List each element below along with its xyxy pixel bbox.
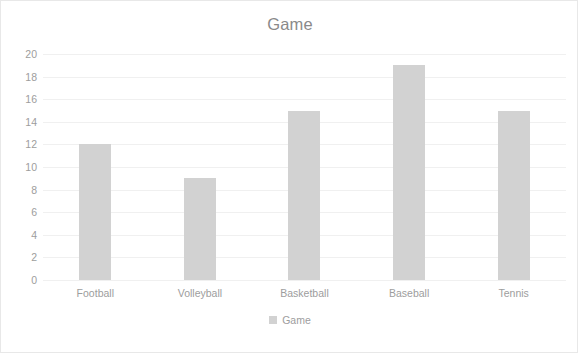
bar-chart: Game 20181614121086420 FootballVolleybal… xyxy=(0,0,578,353)
bar[interactable] xyxy=(393,65,425,280)
bar-slot xyxy=(148,54,253,280)
x-axis-tick-label: Volleyball xyxy=(178,287,222,299)
y-axis-tick-label: 12 xyxy=(3,138,37,150)
y-axis-tick-label: 2 xyxy=(3,251,37,263)
x-axis-tick-label: Football xyxy=(77,287,114,299)
bar[interactable] xyxy=(498,111,530,281)
y-axis-tick-label: 8 xyxy=(3,184,37,196)
y-axis-tick-label: 6 xyxy=(3,206,37,218)
chart-title: Game xyxy=(1,15,578,34)
bar-slot xyxy=(461,54,566,280)
bar-slot xyxy=(43,54,148,280)
y-axis-tick-label: 16 xyxy=(3,93,37,105)
bar[interactable] xyxy=(184,178,216,280)
y-axis-tick-label: 0 xyxy=(3,274,37,286)
x-axis-tick-label: Tennis xyxy=(499,287,529,299)
bar-slot xyxy=(252,54,357,280)
y-axis-tick-label: 20 xyxy=(3,48,37,60)
x-axis: FootballVolleyballBasketballBaseballTenn… xyxy=(43,280,566,304)
legend-swatch-icon xyxy=(269,316,277,324)
y-axis-tick-label: 18 xyxy=(3,71,37,83)
y-axis-tick-label: 14 xyxy=(3,116,37,128)
plot-area xyxy=(43,54,566,280)
chart-legend: Game xyxy=(1,314,578,326)
y-axis: 20181614121086420 xyxy=(1,54,37,280)
y-axis-tick-label: 10 xyxy=(3,161,37,173)
legend-label: Game xyxy=(282,314,311,326)
bar[interactable] xyxy=(288,111,320,281)
x-axis-tick-label: Basketball xyxy=(280,287,328,299)
y-axis-tick-label: 4 xyxy=(3,229,37,241)
x-axis-tick-label: Baseball xyxy=(389,287,429,299)
bar[interactable] xyxy=(79,144,111,280)
bar-slot xyxy=(357,54,462,280)
